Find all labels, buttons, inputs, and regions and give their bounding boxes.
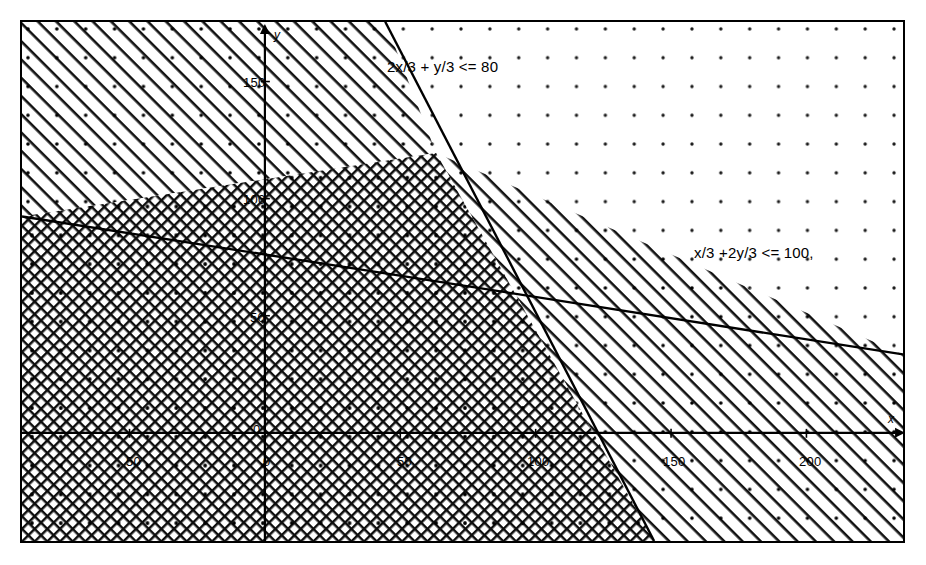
y-tick-label-100: 100	[243, 192, 266, 207]
x-tick-label-100: 100	[527, 454, 550, 469]
y-tick-label-150: 150	[243, 75, 266, 90]
constraint-label-1: 2x/3 + y/3 <= 80	[387, 58, 498, 75]
y-tick-label-50: 50	[250, 310, 265, 325]
x-tick-label-neg50: 50	[126, 454, 141, 469]
x-tick-label-200: 200	[799, 454, 822, 469]
plot-frame: 50 0 50 100 150 200 150 100 50 0 x y 2x/…	[20, 20, 905, 543]
y-axis-name-label: y	[274, 28, 280, 42]
x-axis-name-label: x	[888, 412, 894, 426]
plot-canvas	[22, 22, 903, 541]
constraint-label-2: x/3 +2y/3 <= 100,	[694, 244, 814, 261]
x-tick-label-0: 0	[263, 454, 271, 469]
x-tick-label-50: 50	[397, 454, 412, 469]
x-tick-label-150: 150	[663, 454, 686, 469]
linear-programming-figure: 50 0 50 100 150 200 150 100 50 0 x y 2x/…	[0, 0, 926, 565]
y-tick-label-0: 0	[253, 422, 261, 437]
